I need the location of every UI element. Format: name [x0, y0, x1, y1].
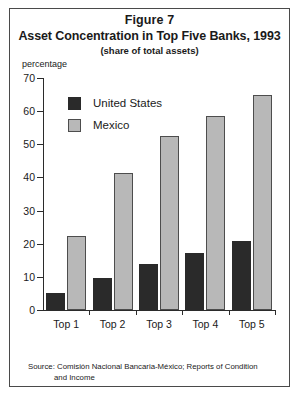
legend-label-united-states: United States — [93, 97, 162, 109]
x-axis-tick-label: Top 3 — [136, 318, 182, 330]
bar-united-states-top-3 — [139, 264, 158, 310]
x-axis-tick — [275, 310, 276, 315]
source-note: Source: Comisión Nacional Bancaria-Méxic… — [28, 361, 284, 383]
bar-united-states-top-5 — [232, 241, 251, 310]
source-text-continued: and Income — [28, 372, 284, 383]
x-axis-tick-label: Top 4 — [182, 318, 228, 330]
bar-mexico-top-4 — [206, 116, 225, 310]
figure-subtitle: (share of total assets) — [10, 44, 289, 58]
x-axis-line — [43, 310, 276, 311]
source-text: Comisión Nacional Bancaria-México; Repor… — [57, 362, 258, 371]
bar-united-states-top-2 — [93, 278, 112, 310]
x-axis-tick-label: Top 5 — [229, 318, 275, 330]
x-axis-tick-label: Top 1 — [43, 318, 89, 330]
chart-legend: United States Mexico — [68, 92, 162, 136]
x-axis-tick — [136, 310, 137, 315]
x-axis-tick — [182, 310, 183, 315]
legend-swatch-united-states-icon — [68, 97, 81, 110]
bar-mexico-top-1 — [67, 236, 86, 310]
figure-number: Figure 7 — [10, 13, 289, 28]
figure-root: Figure 7 Asset Concentration in Top Five… — [0, 0, 299, 395]
bar-mexico-top-3 — [160, 136, 179, 310]
bar-united-states-top-1 — [46, 293, 65, 310]
legend-swatch-mexico-icon — [68, 119, 81, 132]
title-block: Figure 7 Asset Concentration in Top Five… — [10, 13, 289, 58]
x-axis-tick-label: Top 2 — [89, 318, 135, 330]
bar-mexico-top-2 — [114, 173, 133, 310]
source-label: Source: — [28, 362, 55, 371]
legend-label-mexico: Mexico — [93, 119, 129, 131]
x-axis-tick — [89, 310, 90, 315]
legend-item-mexico: Mexico — [68, 114, 162, 136]
x-axis-tick — [229, 310, 230, 315]
bar-united-states-top-4 — [185, 253, 204, 310]
bar-mexico-top-5 — [253, 95, 272, 310]
page-title: Asset Concentration in Top Five Banks, 1… — [10, 28, 289, 44]
legend-item-united-states: United States — [68, 92, 162, 114]
y-axis-unit-label: percentage — [22, 59, 67, 69]
